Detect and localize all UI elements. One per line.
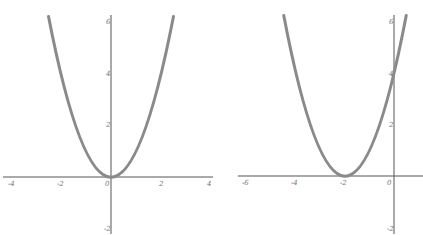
left-y-tick: 2 [105,121,111,129]
right-parabola-curve [284,15,407,176]
right-y-tick: 2 [388,121,394,129]
charts-canvas: -4 -2 0 2 4 6 4 2 -2 -6 -4 -2 0 6 4 2 -2 [0,0,423,235]
right-y-tick: -2 [387,225,394,233]
right-x-tick: 0 [387,179,392,187]
left-y-tick: 4 [105,70,110,78]
right-y-tick: 6 [389,18,394,26]
left-chart: -4 -2 0 2 4 6 4 2 -2 [3,15,213,234]
left-x-tick: -4 [8,180,15,188]
left-x-tick: 4 [206,180,211,188]
right-y-tick: 4 [388,70,393,78]
right-chart: -6 -4 -2 0 6 4 2 -2 [238,15,423,234]
left-y-tick: 6 [106,18,111,26]
left-x-tick: 0 [105,180,110,188]
right-x-tick: -4 [291,179,298,187]
right-x-tick: -2 [340,179,347,187]
left-y-tick: -2 [104,225,111,233]
left-x-tick: -2 [57,180,64,188]
right-x-tick: -6 [242,179,249,187]
left-x-tick: 2 [158,180,164,188]
